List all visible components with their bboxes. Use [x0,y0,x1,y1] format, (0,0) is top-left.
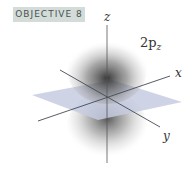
orbital-label: 2pz [140,35,162,52]
z-axis-label: z [103,10,111,24]
x-axis-label: x [175,66,182,80]
y-axis-label: y [162,129,170,143]
orbital-diagram: z x y 2pz [0,0,195,171]
